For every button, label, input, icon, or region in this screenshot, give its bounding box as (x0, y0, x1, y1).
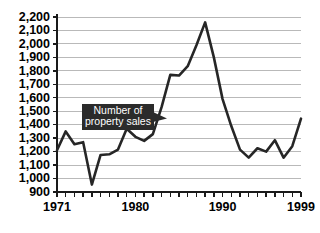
chart-canvas: 2,2002,1002,0001,9001,8001,7001,6001,500… (0, 0, 320, 233)
x-axis-tick-label: 1990 (209, 200, 237, 214)
gridlines (57, 17, 301, 179)
y-axis-tick-label: 2,200 (19, 10, 50, 24)
x-axis-tick-label: 1999 (287, 200, 315, 214)
property-sales-line-chart: 2,2002,1002,0001,9001,8001,7001,6001,500… (0, 0, 320, 233)
y-axis-tick-label: 1,700 (19, 77, 50, 91)
y-axis-tick-label: 1,900 (19, 50, 50, 64)
y-axis-tick-label: 1,100 (19, 158, 50, 172)
y-axis-tick-label: 1,000 (19, 171, 50, 185)
callout-label-line2: property sales (85, 115, 151, 127)
y-axis-tick-label: 1,600 (19, 91, 50, 105)
y-axis-tick-label: 1,300 (19, 131, 50, 145)
y-axis-tick-label: 900 (29, 185, 50, 199)
x-axis-tick-label: 1971 (43, 200, 71, 214)
y-axis-tick-label: 2,000 (19, 37, 50, 51)
x-axis-tick-label: 1980 (122, 200, 150, 214)
y-axis-tick-labels: 2,2002,1002,0001,9001,8001,7001,6001,500… (19, 10, 50, 199)
y-axis-tick-label: 2,100 (19, 23, 50, 37)
y-axis-tick-label: 1,500 (19, 104, 50, 118)
x-axis-tick-labels: 1971198019901999 (43, 200, 315, 214)
y-axis-tick-label: 1,200 (19, 144, 50, 158)
y-axis-tick-label: 1,800 (19, 64, 50, 78)
y-axis-tick-label: 1,400 (19, 117, 50, 131)
